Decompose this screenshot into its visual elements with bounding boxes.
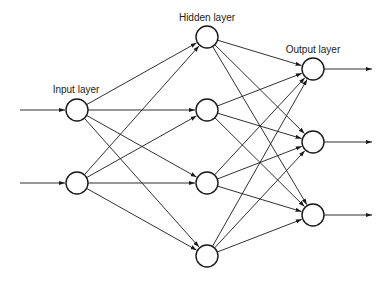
hidden-output-edge (214, 151, 304, 248)
hidden-neuron-node (196, 26, 218, 48)
input-layer-label: Input layer (53, 84, 100, 95)
output-neuron-node (302, 58, 324, 80)
input-neuron-node (66, 99, 88, 121)
output-neuron-node (302, 204, 324, 226)
hidden-neuron-node (196, 172, 218, 194)
hidden-output-edge (214, 78, 304, 175)
hidden-output-edge (217, 73, 302, 106)
hidden-output-edge (212, 79, 307, 246)
layer-labels: Input layer Hidden layer Output layer (53, 12, 341, 95)
input-hidden-edge (87, 43, 197, 105)
hidden-neuron-node (196, 99, 218, 121)
hidden-output-edge (215, 118, 305, 207)
hidden-layer-label: Hidden layer (179, 12, 236, 23)
network-svg: Input layer Hidden layer Output layer (0, 0, 391, 283)
hidden-neuron-node (196, 245, 218, 267)
output-neuron-node (302, 131, 324, 153)
neural-network-diagram: Input layer Hidden layer Output layer (0, 0, 391, 283)
input-neuron-node (66, 172, 88, 194)
output-layer-label: Output layer (286, 44, 341, 55)
input-hidden-edge (87, 188, 197, 250)
neuron-nodes (66, 26, 324, 267)
hidden-output-edge (215, 45, 305, 134)
hidden-output-edge (217, 219, 302, 252)
